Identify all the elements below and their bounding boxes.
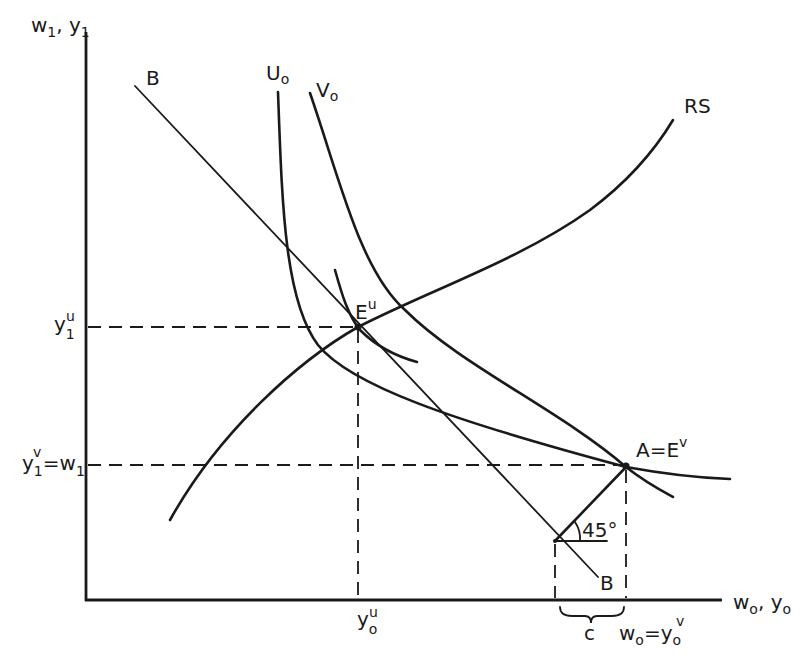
- v0-label: Vo: [316, 78, 338, 104]
- rs-label: RS: [684, 94, 711, 118]
- angle-arc: [575, 522, 580, 541]
- angle-label: 45°: [582, 518, 617, 542]
- w0-tick-sup: v: [676, 613, 684, 629]
- u0-curve: [278, 92, 730, 479]
- x-axis-label: wo, yo: [733, 590, 791, 617]
- y0u-tick-sup: u: [369, 604, 378, 620]
- y-axis-label: w1, y1: [31, 13, 90, 40]
- guide-lines: [88, 327, 626, 598]
- budget-line-bb: [135, 86, 598, 577]
- y1v-tick-sup: v: [33, 444, 41, 460]
- y1u-tick-sup: u: [66, 308, 75, 324]
- v0-curve: [310, 93, 673, 497]
- u0-label: Uo: [266, 61, 289, 87]
- eu-tangent-arc: [335, 270, 417, 362]
- economics-diagram: w1, y1 wo, yo B B Uo Vo RS Eu A=Ev y1 u …: [0, 0, 807, 662]
- budget-label-top: B: [146, 66, 160, 90]
- eu-point: [355, 324, 362, 331]
- y1v-tick-label: y1=w1: [22, 451, 85, 479]
- budget-label-bottom: B: [600, 571, 614, 595]
- c-label: c: [584, 621, 595, 645]
- a-ev-label: A=Ev: [636, 434, 687, 462]
- a-ev-point: [623, 463, 630, 470]
- w0-tick-label: wo=yo: [619, 621, 681, 648]
- c-point: [553, 539, 557, 543]
